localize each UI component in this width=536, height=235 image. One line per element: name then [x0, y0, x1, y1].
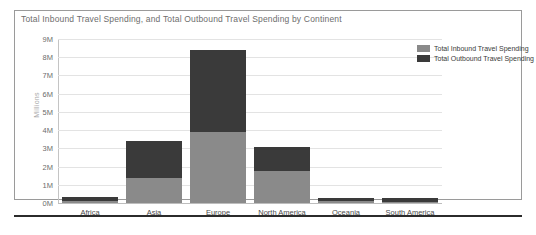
- y-axis-tick-label: 0M: [43, 199, 53, 208]
- bar-segment-inbound[interactable]: [126, 178, 181, 204]
- legend-item[interactable]: Total Inbound Travel Spending: [417, 45, 517, 52]
- chart-title: Total Inbound Travel Spending, and Total…: [21, 14, 342, 24]
- legend-item-label: Total Outbound Travel Spending: [434, 55, 534, 62]
- bar-group[interactable]: Asia: [126, 39, 181, 203]
- bar-segment-outbound[interactable]: [254, 147, 309, 172]
- bar-segment-inbound[interactable]: [190, 132, 245, 203]
- bar-group[interactable]: Europe: [190, 39, 245, 203]
- y-axis-tick-label: 2M: [43, 162, 53, 171]
- bar-segment-outbound[interactable]: [190, 50, 245, 132]
- bar-segment-inbound[interactable]: [382, 202, 437, 203]
- y-axis-tick-label: 5M: [43, 107, 53, 116]
- bar-series-container: AfricaAsiaEuropeNorth AmericaOceaniaSout…: [58, 39, 442, 203]
- y-axis-tick-label: 9M: [43, 35, 53, 44]
- y-axis-tick-label: 6M: [43, 89, 53, 98]
- chart-panel: Total Inbound Travel Spending, and Total…: [14, 10, 522, 200]
- bar-group[interactable]: Oceania: [318, 39, 373, 203]
- bottom-divider: [14, 215, 522, 217]
- chart-legend: Total Inbound Travel SpendingTotal Outbo…: [417, 45, 517, 65]
- bar-group[interactable]: North America: [254, 39, 309, 203]
- y-axis-tick-label: 7M: [43, 71, 53, 80]
- y-axis-title: Millions: [33, 92, 40, 118]
- bar-segment-inbound[interactable]: [62, 201, 117, 203]
- y-axis-tick-label: 4M: [43, 126, 53, 135]
- y-axis-tick-label: 8M: [43, 53, 53, 62]
- y-axis-tick-label: 1M: [43, 180, 53, 189]
- legend-item[interactable]: Total Outbound Travel Spending: [417, 55, 517, 62]
- legend-swatch-icon: [417, 55, 430, 62]
- legend-swatch-icon: [417, 45, 430, 52]
- bar-group[interactable]: Africa: [62, 39, 117, 203]
- y-axis-tick-label: 3M: [43, 144, 53, 153]
- legend-item-label: Total Inbound Travel Spending: [434, 45, 529, 52]
- bar-segment-inbound[interactable]: [254, 171, 309, 203]
- plot-area: 9M8M7M6M5M4M3M2M1M0M AfricaAsiaEuropeNor…: [58, 39, 442, 203]
- bar-segment-outbound[interactable]: [126, 141, 181, 177]
- bar-segment-inbound[interactable]: [318, 201, 373, 203]
- gridline: 0M: [58, 203, 442, 204]
